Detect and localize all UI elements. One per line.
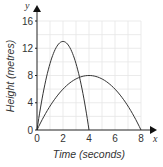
x-tick-label: 0 (34, 133, 40, 144)
y-tick-label: 0 (27, 125, 33, 136)
y-axis-arrow-icon (33, 5, 41, 12)
y-tick-label: 12 (22, 43, 34, 54)
x-tick-label: 8 (138, 133, 144, 144)
projectile-height-chart: 02468 0481216 x y Time (seconds) Height … (0, 0, 163, 167)
y-tick-label: 8 (27, 70, 33, 81)
y-tick-label: 16 (22, 16, 34, 27)
y-tick-label: 4 (27, 97, 33, 108)
x-tick-labels: 02468 (34, 133, 144, 144)
x-tick-label: 4 (86, 133, 92, 144)
y-axis-letter: y (24, 0, 30, 11)
x-tick-label: 6 (112, 133, 118, 144)
x-axis-label: Time (seconds) (53, 148, 125, 160)
x-axis-letter: x (152, 133, 158, 144)
y-axis-label: Height (metres) (4, 40, 16, 112)
axes (33, 5, 157, 134)
y-tick-labels: 0481216 (22, 16, 37, 136)
x-tick-label: 2 (60, 133, 66, 144)
